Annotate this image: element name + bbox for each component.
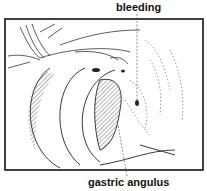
shaded-fold-left	[28, 70, 55, 150]
label-gastric-angulus: gastric angulus	[88, 177, 169, 188]
label-bleeding: bleeding	[116, 2, 161, 13]
mucosa-texture	[125, 40, 183, 135]
angulus-leader-line	[118, 125, 127, 176]
angulus-shaded	[95, 79, 121, 150]
endoscopy-illustration	[0, 0, 207, 191]
mucosal-folds	[8, 24, 140, 68]
